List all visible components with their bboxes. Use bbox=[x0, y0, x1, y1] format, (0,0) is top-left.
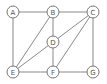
edge-c-d bbox=[53, 12, 93, 42]
node-label: E bbox=[11, 69, 15, 77]
node-label: F bbox=[51, 69, 55, 77]
node-label: D bbox=[50, 39, 55, 47]
edge-d-e bbox=[13, 42, 53, 72]
node-label: B bbox=[51, 9, 56, 17]
node-label: G bbox=[90, 69, 95, 77]
node-d: D bbox=[47, 36, 59, 48]
node-f: F bbox=[47, 66, 59, 78]
graph-nodes: ABCDEFG bbox=[7, 6, 99, 78]
node-a: A bbox=[7, 6, 19, 18]
node-label: C bbox=[91, 9, 96, 17]
graph-diagram: ABCDEFG bbox=[0, 0, 107, 84]
node-g: G bbox=[87, 66, 99, 78]
node-c: C bbox=[87, 6, 99, 18]
node-e: E bbox=[7, 66, 19, 78]
node-label: A bbox=[11, 9, 16, 17]
node-b: B bbox=[47, 6, 59, 18]
